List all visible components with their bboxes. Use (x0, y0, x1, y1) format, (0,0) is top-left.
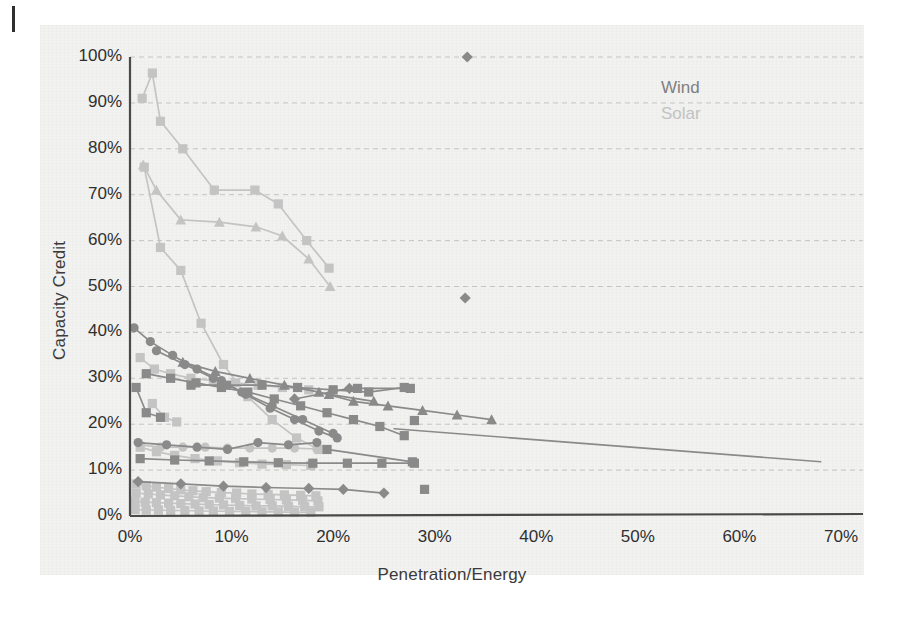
x-axis-tick-label: 70% (801, 527, 881, 547)
x-axis-tick-label: 10% (192, 527, 272, 547)
chart-series (462, 51, 473, 62)
y-axis-tick-label: 80% (58, 138, 122, 158)
y-axis-tick-label: 70% (58, 184, 122, 204)
series-layer (129, 51, 820, 517)
legend-entry-solar: Solar (661, 104, 701, 124)
x-axis-tick-label: 30% (395, 527, 475, 547)
x-axis-tick-label: 50% (598, 527, 678, 547)
y-axis-tick-label: 0% (58, 505, 122, 525)
grid-lines (130, 57, 863, 470)
x-axis-tick-label: 20% (293, 527, 373, 547)
x-axis-tick-label: 60% (699, 527, 779, 547)
y-axis-title: Capacity Credit (50, 241, 70, 360)
chart-series (140, 163, 324, 454)
y-axis-tick-label: 10% (58, 459, 122, 479)
figure-page: 0%10%20%30%40%50%60%70%80%90%100%0%10%20… (0, 0, 904, 629)
chart-series (138, 68, 334, 272)
chart-series (460, 292, 471, 303)
x-axis-tick-label: 0% (90, 527, 170, 547)
y-axis-tick-label: 90% (58, 92, 122, 112)
x-axis-title: Penetration/Energy (0, 565, 904, 585)
chart-series (138, 159, 336, 291)
chart-series (410, 416, 419, 425)
y-axis-tick-label: 30% (58, 367, 122, 387)
y-axis-tick-label: 100% (58, 46, 122, 66)
legend-entry-wind: Wind (661, 78, 700, 98)
y-axis-tick-label: 20% (58, 413, 122, 433)
chart-series (420, 485, 429, 494)
chart-series (394, 429, 821, 462)
x-axis-tick-label: 40% (496, 527, 576, 547)
